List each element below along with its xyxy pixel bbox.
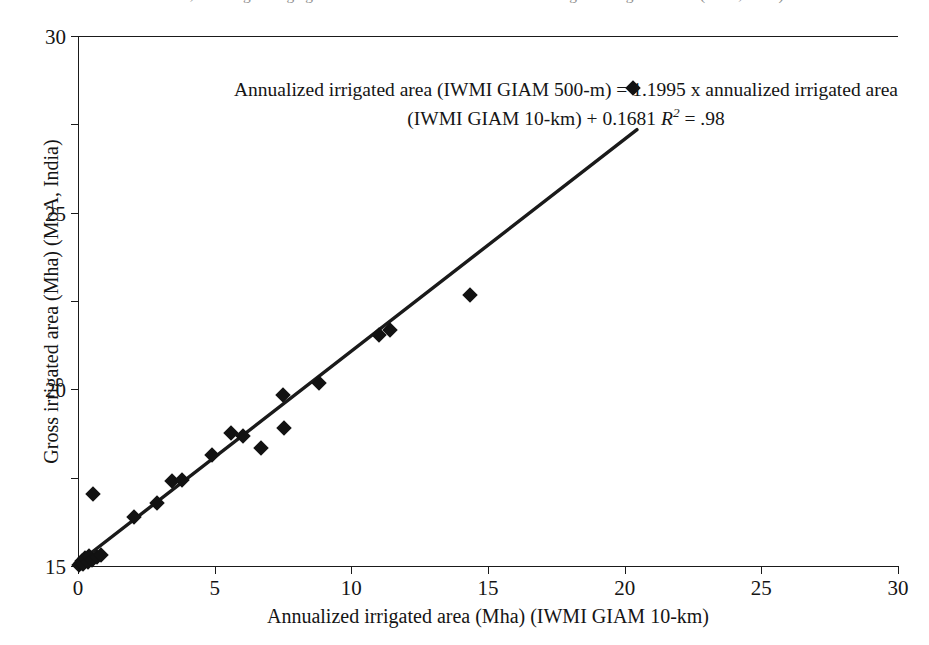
y-tick-mark: 30 [71, 36, 78, 37]
x-tick-mark [488, 566, 489, 574]
data-point-marker [277, 420, 293, 436]
x-tick-mark [898, 566, 899, 574]
data-point-marker [275, 387, 291, 403]
data-point-marker [253, 440, 269, 456]
x-tick-mark [215, 566, 216, 574]
y-axis-title: Gross irrigated area (Mha) (MoA, India) [40, 37, 63, 567]
r-squared-value: = .98 [680, 107, 725, 128]
y-axis-line [78, 36, 79, 566]
x-tick-label: 0 [73, 578, 84, 599]
data-point-marker [236, 428, 252, 444]
data-point-marker [149, 496, 165, 512]
y-tick-mark: 20 [71, 213, 78, 214]
r-symbol: R [661, 107, 673, 128]
x-axis-title: Annualized irrigated area (Mha) (IWMI GI… [78, 605, 898, 628]
axis-top-border [78, 36, 898, 37]
data-point-marker [462, 287, 478, 303]
x-tick-label: 15 [478, 578, 499, 599]
equation-line-2-prefix: (IWMI GIAM 10-km) + 0.1681 [407, 107, 661, 128]
y-tick-mark: 5 [71, 478, 78, 479]
data-point-marker [204, 447, 220, 463]
regression-equation-annotation: Annualized irrigated area (IWMI GIAM 500… [166, 76, 929, 132]
equation-line-1: Annualized irrigated area (IWMI GIAM 500… [166, 76, 929, 104]
data-point-marker [85, 486, 101, 502]
y-tick-mark: 15 [71, 301, 78, 302]
figure-caption-remnant: in India, showing strong agreement betwe… [0, 0, 929, 4]
x-tick-label: 10 [341, 578, 362, 599]
data-point-marker [311, 375, 327, 391]
x-tick-mark [351, 566, 352, 574]
regression-trend-line [78, 130, 637, 563]
y-tick-mark: 10 [71, 389, 78, 390]
x-tick-mark [625, 566, 626, 574]
data-point-marker [126, 509, 142, 525]
plot-area: 051015202530 051015202530 Annualized irr… [78, 36, 898, 566]
x-tick-label: 25 [751, 578, 772, 599]
scatter-chart-figure: in India, showing strong agreement betwe… [0, 0, 929, 645]
x-tick-label: 30 [888, 578, 909, 599]
r-exponent: 2 [673, 105, 680, 120]
data-point-marker [174, 473, 190, 489]
x-tick-label: 20 [614, 578, 635, 599]
x-tick-label: 5 [209, 578, 220, 599]
equation-line-2: (IWMI GIAM 10-km) + 0.1681 R2 = .98 [166, 104, 929, 132]
x-tick-mark [761, 566, 762, 574]
y-tick-mark: 25 [71, 124, 78, 125]
